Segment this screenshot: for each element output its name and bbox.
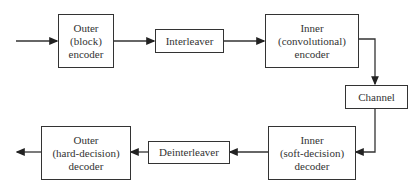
block-label: Inner <box>280 134 344 147</box>
block-label: Deinterleaver <box>159 146 219 159</box>
inner-decoder-block: Inner (soft-decision) decoder <box>268 126 356 180</box>
block-label: Interleaver <box>166 35 214 48</box>
block-label: decoder <box>280 160 344 173</box>
block-label: (soft-decision) <box>280 147 344 160</box>
deinterleaver-block: Deinterleaver <box>148 141 230 164</box>
block-label: encoder <box>69 48 104 61</box>
arrow-channel-to-inner-decoder <box>356 108 375 152</box>
interleaver-block: Interleaver <box>155 29 224 53</box>
block-label: decoder <box>52 160 119 173</box>
block-label: Outer <box>52 134 119 147</box>
block-label: Inner <box>278 22 346 35</box>
block-label: (convolutional) <box>278 35 346 48</box>
channel-block: Channel <box>345 85 408 109</box>
inner-encoder-block: Inner (convolutional) encoder <box>265 14 359 68</box>
block-label: Outer <box>69 22 104 35</box>
arrow-inner-encoder-to-channel <box>358 39 375 84</box>
block-label: (block) <box>69 35 104 48</box>
block-label: encoder <box>278 48 346 61</box>
outer-encoder-block: Outer (block) encoder <box>58 14 114 68</box>
outer-decoder-block: Outer (hard-decision) decoder <box>41 126 131 180</box>
block-label: Channel <box>358 91 395 104</box>
block-label: (hard-decision) <box>52 147 119 160</box>
